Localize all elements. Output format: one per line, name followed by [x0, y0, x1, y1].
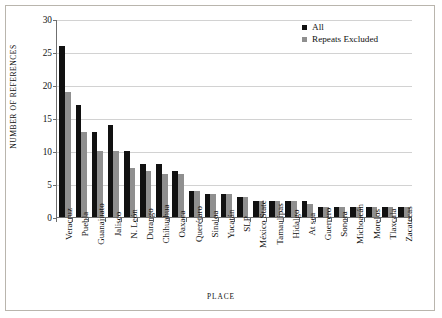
bar-group [235, 20, 251, 217]
bar-group [57, 20, 73, 217]
bar-series-group [57, 20, 412, 217]
y-axis-tick-label: 30 [43, 15, 52, 25]
x-axis-label-cell: Jalisco [105, 224, 121, 290]
bar-group [267, 20, 283, 217]
legend-swatch [302, 37, 307, 42]
x-axis-label-cell: México State [250, 224, 266, 290]
y-axis-title: NUMBER OF REFERENCES [9, 12, 18, 182]
x-axis-label-cell: Hidalgo [283, 224, 299, 290]
bar-group [138, 20, 154, 217]
bar-group [105, 20, 121, 217]
bar-group [73, 20, 89, 217]
y-axis-tick-label: 25 [43, 48, 52, 58]
bar-group [380, 20, 396, 217]
x-axis-label-cell: Yucatán [218, 224, 234, 290]
x-axis-label-cell: SLP [234, 224, 250, 290]
y-axis-tick-label: 15 [43, 114, 52, 124]
bar [113, 151, 119, 217]
x-axis-label-cell: Michoacán [347, 224, 363, 290]
y-axis-tick-label: 20 [43, 81, 52, 91]
bar-chart-figure: NUMBER OF REFERENCES 051015202530 Veracr… [0, 0, 442, 318]
bar-group [315, 20, 331, 217]
bar [81, 132, 87, 217]
x-axis-label-cell: Puebla [72, 224, 88, 290]
bar-group [396, 20, 412, 217]
bar-group [364, 20, 380, 217]
x-axis-label-cell: Guanajuato [88, 224, 104, 290]
chart-legend: AllRepeats Excluded [302, 22, 378, 46]
legend-label: Repeats Excluded [312, 34, 378, 44]
x-axis-label-cell: At sea [299, 224, 315, 290]
legend-label: All [312, 22, 324, 32]
bar-group [218, 20, 234, 217]
x-axis-title: PLACE [0, 292, 442, 301]
bar-group [186, 20, 202, 217]
legend-item: Repeats Excluded [302, 34, 378, 44]
bar-group [299, 20, 315, 217]
x-axis-label-cell: Durango [137, 224, 153, 290]
bar-group [251, 20, 267, 217]
bar-group [348, 20, 364, 217]
y-axis-tick-label: 10 [43, 147, 52, 157]
bar [243, 197, 249, 217]
x-axis-label-cell: Querétaro [186, 224, 202, 290]
x-axis-label-cell: Morelos [364, 224, 380, 290]
x-axis-labels: VeracruzPueblaGuanajuatoJaliscoN. LeónDu… [56, 224, 412, 290]
legend-item: All [302, 22, 378, 32]
x-axis-label-cell: Guerrero [315, 224, 331, 290]
x-axis-label-cell: Sonora [331, 224, 347, 290]
x-axis-label-cell: Tamaulipas [266, 224, 282, 290]
x-axis-label-cell: Chihuahua [153, 224, 169, 290]
x-axis-label-cell: Oaxaca [169, 224, 185, 290]
x-axis-label-cell: Zacatecas [396, 224, 412, 290]
x-axis-label-cell: Sinaloa [202, 224, 218, 290]
bar-group [154, 20, 170, 217]
x-axis-label-cell: Tlaxcala [380, 224, 396, 290]
bar-group [331, 20, 347, 217]
x-axis-tick-label: Zacatecas [404, 206, 414, 241]
y-axis-tick-label: 5 [47, 180, 52, 190]
x-axis-label-cell: N. León [121, 224, 137, 290]
bar-group [202, 20, 218, 217]
bar-group [122, 20, 138, 217]
plot-area: 051015202530 [56, 20, 412, 218]
y-axis-tick-label: 0 [47, 213, 52, 223]
legend-swatch [302, 25, 307, 30]
bar [65, 92, 71, 217]
bar-group [89, 20, 105, 217]
bar-group [283, 20, 299, 217]
x-axis-label-cell: Veracruz [56, 224, 72, 290]
bar-group [170, 20, 186, 217]
